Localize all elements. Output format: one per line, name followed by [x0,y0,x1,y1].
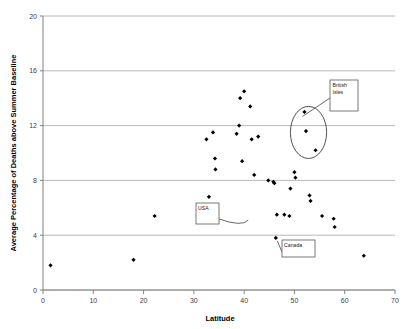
data-point [266,178,270,182]
data-point [287,214,291,218]
british-isles-leader [303,98,330,116]
data-point [238,96,242,100]
y-tick-labels: 048121620 [29,13,37,294]
x-tick-label: 40 [240,297,248,304]
y-tick-label: 16 [29,67,37,74]
data-point [332,217,336,221]
data-point [288,187,292,191]
data-point [240,159,244,163]
data-point [207,195,211,199]
data-point [235,132,239,136]
data-point [304,129,308,133]
y-tick-label: 4 [33,232,37,239]
x-tick-label: 50 [291,297,299,304]
y-tick-label: 0 [33,287,37,294]
data-point [274,236,278,240]
x-tick-label: 30 [190,297,198,304]
chart-canvas: 048121620 010203040506070 BritishIslesUS… [0,0,410,329]
data-point [308,199,312,203]
x-tick-labels: 010203040506070 [41,297,399,304]
data-point [237,124,241,128]
data-point [252,173,256,177]
y-tick-label: 8 [33,177,37,184]
data-point [213,167,217,171]
data-point [213,156,217,160]
data-point [292,170,296,174]
canada-label: Canada [284,242,302,248]
canada-leader [277,241,282,252]
data-point [362,254,366,258]
data-point [204,137,208,141]
data-point [307,193,311,197]
x-axis [43,290,395,294]
data-point [48,263,52,267]
x-tick-label: 20 [140,297,148,304]
scatter-chart: 048121620 010203040506070 BritishIslesUS… [0,0,410,329]
british-isles-label-line-1: British [333,82,348,88]
x-tick-label: 0 [41,297,45,304]
data-point [282,213,286,217]
usa-label: USA [198,205,209,211]
data-points [48,89,365,267]
data-point [248,104,252,108]
data-point [333,225,337,229]
y-tick-label: 12 [29,122,37,129]
data-point [211,130,215,134]
grid-lines [43,16,395,290]
x-tick-label: 10 [89,297,97,304]
x-tick-label: 70 [391,297,399,304]
y-axis [40,16,43,290]
data-point [250,137,254,141]
data-point [275,213,279,217]
annotations: BritishIslesUSACanada [196,80,358,257]
y-axis-title: Average Percentage of Deaths above Summe… [9,55,18,252]
data-point [293,176,297,180]
data-point [131,258,135,262]
x-axis-title: Latitude [205,314,234,323]
usa-leader [219,219,248,223]
british-isles-ellipse [290,106,326,158]
data-point [242,89,246,93]
data-point [256,134,260,138]
x-tick-label: 60 [341,297,349,304]
y-tick-label: 20 [29,13,37,20]
data-point [313,148,317,152]
british-isles-label-line-2: Isles [333,89,344,95]
data-point [320,214,324,218]
data-point [153,214,157,218]
data-point [302,110,306,114]
